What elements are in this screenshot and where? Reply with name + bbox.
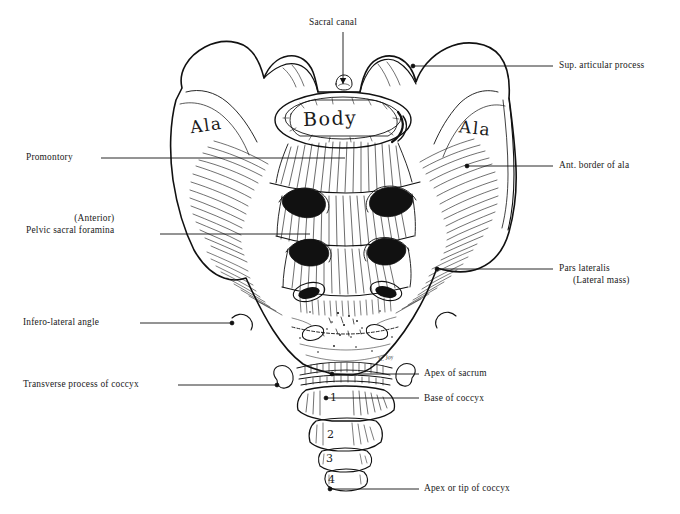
callout-infero-lateral-angle-label: Infero-lateral angle [23, 317, 99, 329]
callout-sup-articular-process: Sup. articular process [559, 60, 644, 72]
callout-ant-border-of-ala-pointer-dot [465, 164, 469, 168]
callout-transverse-process-of-coccyx-label: Transverse process of coccyx [23, 379, 139, 391]
callout-pars-lateralis-label-line2: (Lateral mass) [559, 275, 630, 287]
callout-pelvic-sacral-foramina-label: (Anterior) [21, 213, 114, 225]
callout-promontory-label: Promontory [26, 152, 73, 164]
callout-sup-articular-process-label: Sup. articular process [559, 60, 644, 72]
callout-pars-lateralis: Pars lateralis(Lateral mass) [559, 263, 630, 286]
callout-apex-or-tip-of-coccyx-label: Apex or tip of coccyx [424, 483, 510, 495]
callout-base-of-coccyx-pointer-dot [324, 396, 328, 400]
callout-transverse-process-of-coccyx: Transverse process of coccyx [23, 379, 139, 391]
callout-apex-of-sacrum-pointer-dot [330, 372, 334, 376]
callout-promontory: Promontory [26, 152, 73, 164]
callout-ant-border-of-ala: Ant. border of ala [559, 160, 629, 172]
callout-infero-lateral-angle: Infero-lateral angle [23, 317, 99, 329]
callout-transverse-process-of-coccyx-pointer-dot [275, 383, 279, 387]
callout-pars-lateralis-pointer-dot [435, 267, 439, 271]
callout-pelvic-sacral-foramina: (Anterior) Pelvic sacral foramina [21, 213, 114, 236]
callout-sacral-canal: Sacral canal [309, 17, 357, 29]
sacrum-anterior-view-illustration [0, 0, 680, 514]
callout-base-of-coccyx: Base of coccyx [424, 393, 484, 405]
callout-infero-lateral-angle-pointer-dot [230, 321, 234, 325]
callout-base-of-coccyx-label: Base of coccyx [424, 393, 484, 405]
callout-pelvic-sacral-foramina-label-line2: Pelvic sacral foramina [21, 225, 114, 237]
callout-apex-of-sacrum-label: Apex of sacrum [424, 368, 487, 380]
figure-background [0, 0, 680, 514]
callout-sacral-canal-label: Sacral canal [309, 17, 357, 29]
callout-apex-or-tip-of-coccyx: Apex or tip of coccyx [424, 483, 510, 495]
callout-pars-lateralis-label: Pars lateralis [559, 263, 630, 275]
callout-apex-or-tip-of-coccyx-pointer-dot [328, 487, 332, 491]
callout-apex-of-sacrum: Apex of sacrum [424, 368, 487, 380]
callout-sup-articular-process-pointer-dot [411, 64, 415, 68]
callout-ant-border-of-ala-label: Ant. border of ala [559, 160, 629, 172]
